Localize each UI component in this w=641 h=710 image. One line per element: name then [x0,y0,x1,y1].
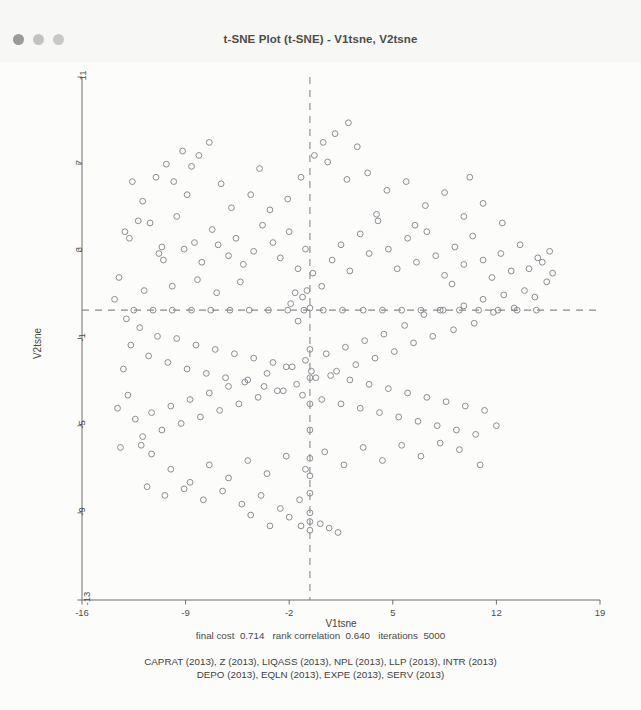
y-tick-label: -13 [81,592,92,606]
x-axis-label: V1tsne [82,618,600,629]
y-tick-label: -9 [76,507,87,515]
figure-caption: final cost 0.714 rank correlation 0.640 … [0,630,641,681]
y-tick-label: -5 [76,420,87,428]
x-tick-label: -9 [181,607,189,618]
y-tick-label: -1 [76,333,87,341]
x-tick-label: -2 [285,607,293,618]
data-point-layer [112,120,556,535]
y-axis-label: V2tsne [32,328,43,359]
scatter-plot-figure: -16-9-251219-13-9-5-13711 V1tsne V2tsne … [0,62,641,710]
y-tick-label: 7 [73,160,84,165]
plot-canvas [0,62,641,710]
variable-line-1: CAPRAT (2013), Z (2013), LIQASS (2013), … [0,655,641,668]
y-tick-label: 3 [73,247,84,252]
x-tick-label: 19 [595,607,606,618]
variable-line-2: DEPO (2013), EQLN (2013), EXPE (2013), S… [0,668,641,681]
x-tick-label: 5 [390,607,395,618]
x-tick-label: 12 [491,607,502,618]
x-tick-label: -16 [75,607,89,618]
window-title-bar: t-SNE Plot (t-SNE) - V1tsne, V2tsne [0,0,641,62]
page-title: t-SNE Plot (t-SNE) - V1tsne, V2tsne [0,33,641,45]
y-tick-label: 11 [77,71,88,81]
tick-marks [78,77,601,605]
fit-statistics-line: final cost 0.714 rank correlation 0.640 … [0,630,641,641]
